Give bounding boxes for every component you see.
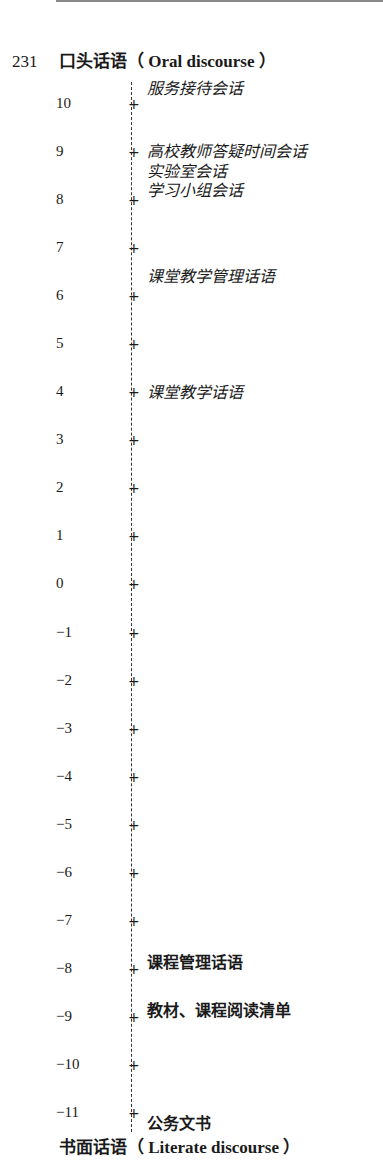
- tick-mark-plus-icon: +: [128, 961, 140, 977]
- register-item-label: 教材、课程阅读清单: [147, 1002, 291, 1020]
- tick-mark-plus-icon: +: [128, 1057, 140, 1073]
- register-item-label: 课堂教学话语: [147, 384, 243, 402]
- tick-mark-plus-icon: +: [128, 288, 140, 304]
- tick-label: 6: [56, 286, 96, 304]
- tick-mark-plus-icon: +: [128, 817, 140, 833]
- tick-label: −8: [56, 959, 96, 977]
- tick-label: 5: [56, 334, 96, 352]
- register-item-label: 服务接待会话: [147, 80, 243, 98]
- tick-label: −3: [56, 719, 96, 737]
- register-item-label: 学习小组会话: [147, 182, 243, 200]
- tick-mark-plus-icon: +: [128, 673, 140, 689]
- tick-label: 7: [56, 238, 96, 256]
- tick-mark-plus-icon: +: [128, 1105, 140, 1121]
- tick-label: 1: [56, 526, 96, 544]
- tick-label: 4: [56, 382, 96, 400]
- tick-mark-plus-icon: +: [128, 480, 140, 496]
- tick-mark-plus-icon: +: [128, 913, 140, 929]
- tick-label: 0: [56, 574, 96, 592]
- tick-mark-plus-icon: +: [128, 384, 140, 400]
- tick-mark-plus-icon: +: [128, 769, 140, 785]
- tick-mark-plus-icon: +: [128, 528, 140, 544]
- oral-discourse-pole-label: 口头话语（ Oral discourse ）: [59, 52, 276, 72]
- tick-label: −9: [56, 1007, 96, 1025]
- tick-label: 9: [56, 142, 96, 160]
- literate-discourse-pole-label: 书面话语（ Literate discourse ）: [59, 1138, 300, 1158]
- tick-label: 10: [56, 94, 96, 112]
- tick-label: −10: [56, 1055, 96, 1073]
- tick-label: −7: [56, 911, 96, 929]
- tick-mark-plus-icon: +: [128, 96, 140, 112]
- tick-mark-plus-icon: +: [128, 192, 140, 208]
- tick-mark-plus-icon: +: [128, 1009, 140, 1025]
- register-item-label: 高校教师答疑时间会话: [147, 143, 307, 161]
- tick-label: −1: [56, 623, 96, 641]
- tick-label: −11: [56, 1103, 96, 1121]
- tick-mark-plus-icon: +: [128, 625, 140, 641]
- register-item-label: 公务文书: [147, 1115, 211, 1133]
- top-rule: [56, 0, 383, 2]
- register-item-label: 实验室会话: [147, 163, 227, 181]
- register-item-label: 课程管理话语: [147, 954, 243, 972]
- tick-label: −4: [56, 767, 96, 785]
- tick-label: −5: [56, 815, 96, 833]
- tick-mark-plus-icon: +: [128, 865, 140, 881]
- tick-mark-plus-icon: +: [128, 144, 140, 160]
- tick-mark-plus-icon: +: [128, 721, 140, 737]
- tick-label: 8: [56, 190, 96, 208]
- tick-mark-plus-icon: +: [128, 432, 140, 448]
- tick-mark-plus-icon: +: [128, 336, 140, 352]
- tick-label: 3: [56, 430, 96, 448]
- tick-label: 2: [56, 478, 96, 496]
- page-number: 231: [12, 52, 38, 72]
- tick-mark-plus-icon: +: [128, 240, 140, 256]
- tick-label: −6: [56, 863, 96, 881]
- register-item-label: 课堂教学管理话语: [147, 268, 275, 286]
- tick-mark-plus-icon: +: [128, 576, 140, 592]
- tick-label: −2: [56, 671, 96, 689]
